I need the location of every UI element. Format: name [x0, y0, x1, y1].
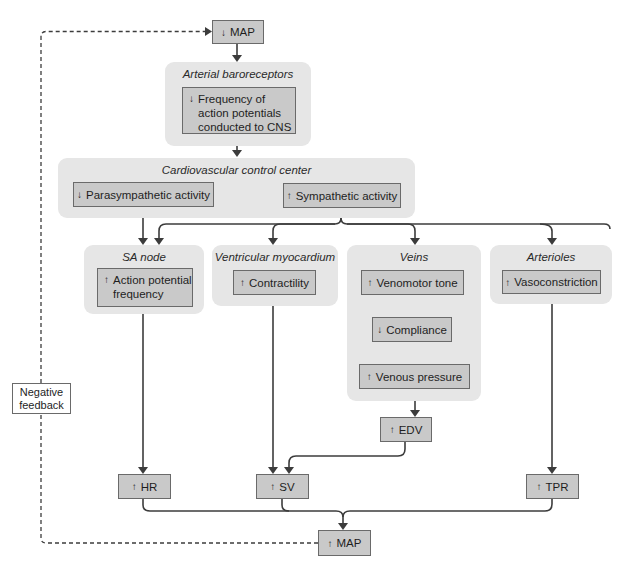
box-label: Compliance [386, 323, 447, 337]
negative-feedback-label: Negative feedback [12, 383, 71, 414]
arrow-up-icon: ↑ [104, 274, 109, 285]
box-label: Vasoconstriction [514, 275, 598, 289]
arrow-up-icon: ↑ [132, 481, 137, 492]
parasympathetic-activity-box: ↓ Parasympathetic activity [73, 182, 214, 207]
box-label: Venous pressure [376, 370, 462, 384]
panel-title: Arterioles [490, 251, 612, 263]
tpr-box: ↑ TPR [526, 474, 579, 499]
box-label: Sympathetic activity [296, 189, 398, 203]
box-label: EDV [399, 423, 423, 437]
map-decrease-box: ↓ MAP [212, 20, 264, 44]
arrow-down-icon: ↓ [221, 27, 226, 38]
arrow-down-icon: ↓ [377, 324, 382, 335]
panel-title: Arterial baroreceptors [165, 68, 311, 80]
box-label: MAP [337, 536, 362, 550]
venous-pressure-box: ↑ Venous pressure [359, 364, 470, 389]
arrow-up-icon: ↑ [328, 538, 333, 549]
box-label: SV [279, 480, 294, 494]
panel-title: Veins [347, 251, 481, 263]
map-increase-box: ↑ MAP [318, 530, 371, 556]
sympathetic-activity-box: ↑ Sympathetic activity [283, 183, 401, 208]
contractility-box: ↑ Contractility [233, 270, 316, 295]
sa-action-potential-frequency-box: ↑ Action potential frequency [97, 268, 193, 307]
compliance-box: ↓ Compliance [372, 317, 452, 342]
arrow-up-icon: ↑ [537, 481, 542, 492]
arrow-down-icon: ↓ [189, 93, 194, 104]
box-label: Venomotor tone [376, 276, 457, 290]
arrow-down-icon: ↓ [77, 189, 82, 200]
panel-title: SA node [84, 251, 204, 263]
box-label: Parasympathetic activity [86, 188, 210, 202]
box-label: Frequency of action potentials conducted… [198, 92, 291, 134]
panel-title: Cardiovascular control center [58, 164, 415, 176]
arrow-up-icon: ↑ [287, 190, 292, 201]
vasoconstriction-box: ↑ Vasoconstriction [502, 270, 601, 294]
negative-feedback-text: Negative feedback [19, 386, 64, 411]
action-potential-frequency-box: ↓ Frequency of action potentials conduct… [182, 87, 296, 134]
box-label: Action potential frequency [113, 273, 192, 301]
map-label: MAP [230, 25, 255, 39]
arrow-up-icon: ↑ [270, 481, 275, 492]
venomotor-tone-box: ↑ Venomotor tone [361, 270, 464, 295]
arrow-up-icon: ↑ [390, 424, 395, 435]
panel-title: Ventricular myocardium [212, 251, 338, 263]
edv-box: ↑ EDV [380, 417, 432, 442]
arrow-up-icon: ↑ [505, 277, 510, 288]
arrow-up-icon: ↑ [367, 371, 372, 382]
arrow-up-icon: ↑ [240, 277, 245, 288]
hr-box: ↑ HR [118, 474, 171, 499]
sv-box: ↑ SV [256, 474, 309, 499]
box-label: HR [141, 480, 158, 494]
box-label: TPR [546, 480, 569, 494]
arrow-up-icon: ↑ [367, 277, 372, 288]
box-label: Contractility [249, 276, 309, 290]
